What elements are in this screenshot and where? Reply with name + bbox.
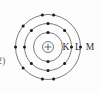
shell-label-l: L: [75, 42, 81, 52]
electron-dot: [23, 46, 26, 49]
electron-dot: [52, 78, 55, 81]
electron-dot: [41, 13, 44, 16]
bohr-atom-figure: KLM: [0, 0, 101, 94]
shell-labels-group: KLM: [63, 42, 95, 52]
shell-label-m: M: [86, 42, 95, 52]
electron-dot: [22, 25, 25, 28]
electron-dot: [47, 60, 50, 63]
shell-label-k: K: [63, 42, 70, 52]
electron-dot: [47, 69, 50, 72]
electron-dot: [47, 31, 50, 34]
atom-diagram-container: 2) KLM: [0, 0, 101, 94]
electron-dot: [52, 13, 55, 16]
electron-dot: [47, 22, 50, 25]
electron-dot: [14, 46, 17, 49]
electron-dot: [70, 46, 73, 49]
electron-dot: [30, 62, 33, 65]
electron-dot: [63, 29, 66, 32]
electron-dot: [30, 29, 33, 32]
electron-dot: [63, 62, 66, 65]
electron-dot: [41, 78, 44, 81]
electron-dot: [22, 66, 25, 69]
nucleus-group: [43, 42, 54, 53]
